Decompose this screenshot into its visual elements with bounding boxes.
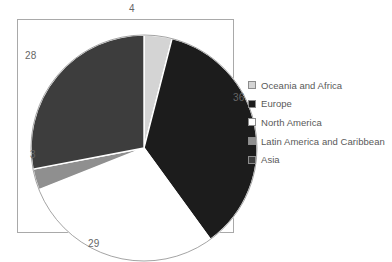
data-label-asia: 28 <box>25 50 36 61</box>
legend-label-asia: Asia <box>261 154 280 165</box>
legend-item-asia[interactable]: Asia <box>248 150 392 169</box>
legend-swatch-north-america <box>248 118 256 126</box>
data-label-latin-america-and-caribbean: 3 <box>30 149 36 160</box>
legend-label-europe: Europe <box>261 98 292 109</box>
chart-legend: Oceania and AfricaEuropeNorth AmericaLat… <box>248 76 392 169</box>
legend-item-latin-america-and-caribbean[interactable]: Latin America and Caribbean <box>248 132 392 151</box>
legend-item-north-america[interactable]: North America <box>248 113 392 132</box>
pie-slices <box>31 35 257 261</box>
legend-swatch-europe <box>248 100 256 108</box>
legend-label-latin-america-and-caribbean: Latin America and Caribbean <box>261 136 385 147</box>
data-label-oceania-and-africa: 4 <box>129 3 135 14</box>
pie-svg <box>30 34 258 262</box>
legend-label-north-america: North America <box>261 117 322 128</box>
data-label-north-america: 29 <box>88 238 99 249</box>
data-label-europe: 36 <box>233 92 244 103</box>
legend-label-oceania-and-africa: Oceania and Africa <box>261 80 342 91</box>
pie-slice-asia[interactable] <box>31 35 144 169</box>
legend-item-oceania-and-africa[interactable]: Oceania and Africa <box>248 76 392 95</box>
plot-area <box>17 19 234 233</box>
legend-swatch-oceania-and-africa <box>248 81 256 89</box>
legend-swatch-asia <box>248 156 256 164</box>
legend-item-europe[interactable]: Europe <box>248 95 392 114</box>
legend-swatch-latin-america-and-caribbean <box>248 137 256 145</box>
